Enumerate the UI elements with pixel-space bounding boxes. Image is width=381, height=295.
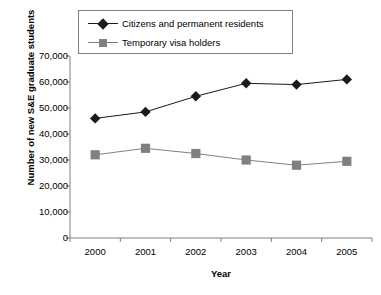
x-axis-tick-label: 2000 (75, 247, 115, 257)
x-axis-title: Year (70, 268, 372, 279)
legend: Citizens and permanent residents Tempora… (78, 10, 293, 54)
legend-item-citizens: Citizens and permanent residents (79, 14, 292, 33)
x-axis-tick-label: 2001 (126, 247, 166, 257)
diamond-marker-icon (88, 18, 118, 30)
x-axis-tick-label: 2005 (327, 247, 367, 257)
x-axis-tick-label: 2003 (226, 247, 266, 257)
line-chart: Number of new S&E graduate students 70,0… (0, 0, 381, 295)
legend-label-temporary: Temporary visa holders (122, 38, 220, 48)
legend-item-temporary: Temporary visa holders (79, 33, 292, 52)
x-axis-tick-label: 2002 (176, 247, 216, 257)
square-marker-icon (88, 37, 118, 49)
x-axis-tick-label: 2004 (277, 247, 317, 257)
legend-label-citizens: Citizens and permanent residents (122, 19, 264, 29)
